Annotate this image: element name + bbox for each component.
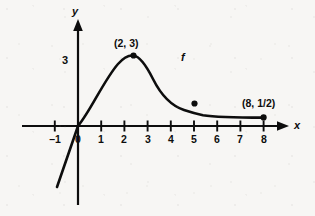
graph-figure: –1 0 1 2 3 4 5 6 7 8 3 y x (2, 3) f (8, …	[0, 0, 315, 216]
x-tick-label-6: 6	[209, 134, 225, 145]
x-tick-label-0: 0	[70, 134, 86, 145]
x-tick-label-7: 7	[232, 134, 248, 145]
point-peak	[130, 52, 136, 58]
y-tick-label-3: 3	[62, 55, 68, 66]
curve-f	[78, 55, 264, 126]
x-tick-label-3: 3	[140, 134, 156, 145]
x-tick-label-1: 1	[93, 134, 109, 145]
x-tick-label-4: 4	[163, 134, 179, 145]
peak-point-label: (2, 3)	[114, 38, 139, 49]
x-axis	[22, 121, 289, 131]
x-tick-label-minus1: –1	[46, 134, 64, 145]
x-axis-label: x	[294, 120, 300, 131]
x-tick-label-5: 5	[186, 134, 202, 145]
y-axis-label: y	[72, 6, 78, 17]
curve-f-label: f	[181, 52, 185, 63]
x-tick-label-2: 2	[116, 134, 132, 145]
y-axis	[73, 19, 83, 205]
x-tick-label-8: 8	[256, 134, 272, 145]
point-mid	[191, 100, 197, 106]
endpoint-point-label: (8, 1/2)	[242, 98, 275, 109]
point-endpoint	[261, 114, 267, 120]
